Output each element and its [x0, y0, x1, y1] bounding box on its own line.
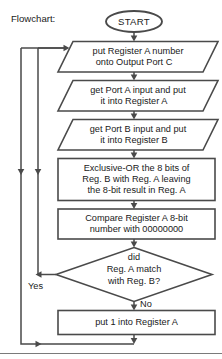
yes-branch-label: Yes	[28, 281, 43, 291]
exclusive-or-line3: the 8-bit result in Reg. A	[87, 185, 186, 195]
compare-line2: number with 00000000	[90, 224, 183, 234]
decision-line3: with Reg. B?	[107, 276, 160, 286]
arrow-head-icon	[36, 341, 42, 348]
output-port-c-line2: onto Output Port C	[96, 57, 173, 67]
arrow-head-icon	[131, 36, 138, 42]
start-terminator-label: START	[118, 16, 150, 27]
put-one-line1: put 1 into Register A	[95, 317, 179, 327]
input-port-a-line2: it into Register A	[101, 96, 169, 106]
decision-line1: did	[128, 252, 140, 262]
arrow-head-icon	[131, 114, 138, 120]
compare-line1: Compare Register A 8-bit	[85, 213, 188, 223]
input-port-b-line1: get Port B input and put	[90, 124, 187, 134]
arrow-head-icon	[131, 338, 138, 344]
arrow-head-icon	[131, 242, 138, 248]
flowchart-screenshot: Flowchart: START put Register A number o…	[0, 0, 222, 359]
arrow-head-icon	[131, 153, 138, 159]
flowchart-caption: Flowchart:	[11, 13, 55, 24]
exclusive-or-line1: Exclusive-OR the 8 bits of	[84, 163, 190, 173]
input-port-b-line2: it into Register B	[100, 135, 167, 145]
decision-line2: Reg. A match	[107, 264, 162, 274]
exclusive-or-line2: Reg. B with Reg. A leaving	[82, 174, 190, 184]
flowchart-diagram: Flowchart: START put Register A number o…	[0, 0, 222, 359]
arrow-head-icon	[131, 305, 138, 311]
arrow-head-icon	[131, 203, 138, 209]
no-branch-label: No	[140, 299, 152, 309]
arrow-head-icon	[18, 169, 25, 175]
arrow-head-icon	[131, 75, 138, 81]
output-port-c-line1: put Register A number	[93, 46, 184, 56]
arrow-head-icon	[35, 169, 42, 175]
input-port-a-line1: get Port A input and put	[90, 85, 186, 95]
